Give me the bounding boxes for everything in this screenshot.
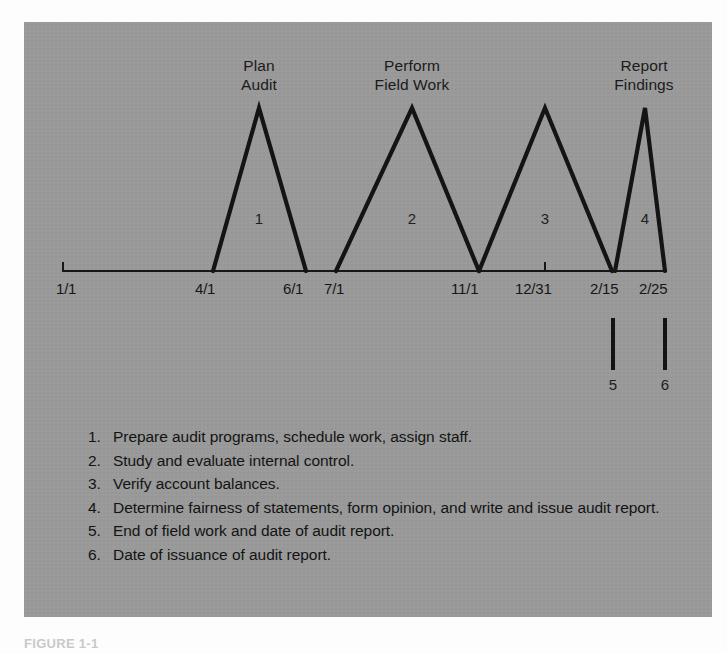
phase-label-1-line1: Plan [217,56,301,75]
note-text: End of field work and date of audit repo… [113,520,668,542]
event-number-6: 6 [655,376,675,393]
list-item: 5. End of field work and date of audit r… [88,520,668,542]
phase-label-1-line2: Audit [217,75,301,94]
phase-label-4-line1: Report [589,56,699,75]
axis-label-11-1: 11/1 [451,280,478,297]
axis-label-6-1: 6/1 [283,280,303,297]
note-text: Prepare audit programs, schedule work, a… [113,426,668,448]
note-text: Determine fairness of statements, form o… [113,497,668,519]
phase-triangle-3 [479,108,612,271]
list-item: 1. Prepare audit programs, schedule work… [88,426,668,448]
note-marker: 3. [88,473,113,495]
note-marker: 1. [88,426,113,448]
axis-label-12-31: 12/31 [515,280,552,297]
phase-triangle-2 [336,108,479,271]
axis-label-2-15: 2/15 [590,280,618,297]
figure-panel: Plan Audit Perform Field Work Report Fin… [24,22,712,617]
list-item: 4. Determine fairness of statements, for… [88,497,668,519]
phase-label-2-line1: Perform [354,56,470,75]
figure-caption: FIGURE 1-1 [24,636,99,651]
phase-number-3: 3 [535,210,555,227]
phase-label-4-line2: Findings [589,75,699,94]
note-text: Date of issuance of audit report. [113,544,668,566]
axis-label-1-1: 1/1 [56,280,76,297]
phase-label-2: Perform Field Work [354,56,470,94]
phase-label-4: Report Findings [589,56,699,94]
phase-triangle-4 [615,108,665,271]
list-item: 6. Date of issuance of audit report. [88,544,668,566]
axis-label-4-1: 4/1 [195,280,215,297]
event-number-5: 5 [603,376,623,393]
phase-number-2: 2 [402,210,422,227]
list-item: 2. Study and evaluate internal control. [88,450,668,472]
phase-number-1: 1 [249,210,269,227]
note-marker: 5. [88,520,113,542]
phase-label-1: Plan Audit [217,56,301,94]
phase-label-2-line2: Field Work [354,75,470,94]
audit-timeline-chart: Plan Audit Perform Field Work Report Fin… [24,22,712,412]
note-marker: 6. [88,544,113,566]
note-marker: 4. [88,497,113,519]
note-text: Study and evaluate internal control. [113,450,668,472]
list-item: 3. Verify account balances. [88,473,668,495]
phase-number-4: 4 [635,210,655,227]
axis-label-7-1: 7/1 [324,280,344,297]
axis-label-2-25: 2/25 [639,280,667,297]
note-marker: 2. [88,450,113,472]
phase-triangle-1 [213,108,306,271]
note-text: Verify account balances. [113,473,668,495]
notes-list: 1. Prepare audit programs, schedule work… [88,426,668,567]
